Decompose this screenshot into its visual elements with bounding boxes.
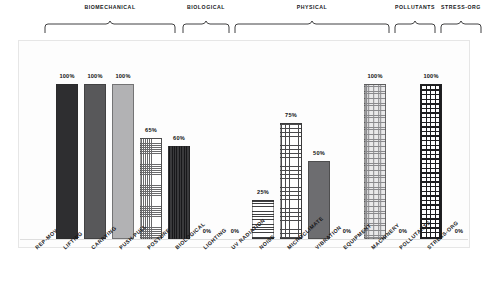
bar-fill (56, 84, 78, 239)
bar-value-stress-org: 0% (455, 228, 464, 234)
bar-equipment[interactable]: 100% (364, 84, 386, 239)
bar-value-posture: 60% (173, 135, 185, 141)
group-label-biological: BIOLOGICAL (182, 4, 230, 10)
group-biomechanical: BIOMECHANICAL (44, 0, 176, 42)
group-label-physical: PHYSICAL (234, 4, 390, 10)
bar-fill (84, 84, 106, 239)
plot-area: 100% 100% 100% 65% 60% (18, 40, 470, 248)
bar-rep-mov[interactable]: 100% (56, 84, 78, 239)
bar-fill (420, 84, 442, 239)
group-pollutants: POLLUTANTS (394, 0, 436, 42)
bar-value-pollutants: 100% (423, 73, 438, 79)
bar-value-push-pull: 65% (145, 127, 157, 133)
group-biological: BIOLOGICAL (182, 0, 230, 42)
brace-biological (182, 20, 230, 34)
group-bracket-band: BIOMECHANICAL BIOLOGICAL PHYSICAL (0, 0, 485, 42)
brace-stress-org (440, 20, 482, 34)
brace-physical (234, 20, 390, 34)
brace-biomechanical (44, 20, 176, 34)
bar-value-noise: 75% (285, 112, 297, 118)
bar-value-machinery: 0% (399, 228, 408, 234)
group-stress-org: STRESS-ORG (440, 0, 482, 42)
bar-value-carrying: 100% (115, 73, 130, 79)
bar-value-uv-radiation: 25% (257, 189, 269, 195)
bar-stress-org[interactable]: 0% (448, 238, 470, 239)
bar-value-vibration: 0% (343, 228, 352, 234)
bar-fill (280, 123, 302, 239)
x-axis-labels: REP-MOV LIFTING CARRYING PUSH-PULL POSTU… (0, 246, 485, 293)
brace-pollutants (394, 20, 436, 34)
group-label-biomechanical: BIOMECHANICAL (44, 4, 176, 10)
bar-fill (112, 84, 134, 239)
group-label-stress-org: STRESS-ORG (440, 4, 482, 10)
bar-posture[interactable]: 60% (168, 146, 190, 239)
bar-carrying[interactable]: 100% (112, 84, 134, 239)
bar-value-equipment: 100% (367, 73, 382, 79)
bar-value-lifting: 100% (87, 73, 102, 79)
bar-lifting[interactable]: 100% (84, 84, 106, 239)
group-physical: PHYSICAL (234, 0, 390, 42)
bar-fill (168, 146, 190, 239)
bar-noise[interactable]: 75% (280, 123, 302, 239)
bar-value-lighting: 0% (231, 228, 240, 234)
chart-root: BIOMECHANICAL BIOLOGICAL PHYSICAL (0, 0, 485, 293)
bar-value-microclimate: 50% (313, 150, 325, 156)
bar-pollutants[interactable]: 100% (420, 84, 442, 239)
bar-fill (364, 84, 386, 239)
bar-value-biological: 0% (203, 228, 212, 234)
group-label-pollutants: POLLUTANTS (394, 4, 436, 10)
bar-value-rep-mov: 100% (59, 73, 74, 79)
